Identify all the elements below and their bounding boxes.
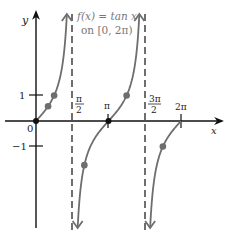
svg-text:π: π [76, 94, 82, 104]
svg-text:3π: 3π [149, 94, 161, 104]
xtick-label-3pi-half: 3π 2 [148, 94, 161, 115]
chart-title-line1: f(x) = tan x [76, 10, 137, 22]
xtick-label-2pi: 2π [175, 102, 187, 112]
x-axis-label: x [211, 125, 217, 136]
xtick-label-pi: π [104, 101, 110, 111]
data-point [51, 92, 58, 99]
data-point [123, 92, 130, 99]
xtick-label-pi-half: π 2 [75, 94, 84, 115]
ytick-label-neg1: −1 [12, 141, 27, 152]
tan-branch-3 [150, 121, 181, 228]
svg-text:2: 2 [76, 105, 82, 115]
data-point [33, 118, 39, 124]
chart-title-line2: on [0, 2π) [81, 24, 133, 36]
data-point [81, 162, 88, 169]
svg-text:2: 2 [151, 105, 157, 115]
data-point [106, 118, 112, 124]
tan-branch-1 [36, 14, 67, 121]
tan-chart: y x 0 1 −1 π 2 π 3π 2 2π f(x) = tan x on… [0, 0, 230, 236]
data-point [160, 143, 167, 150]
data-point [45, 103, 52, 110]
y-axis-label: y [21, 14, 29, 27]
origin-label: 0 [27, 123, 33, 134]
ytick-label-1: 1 [19, 90, 25, 101]
